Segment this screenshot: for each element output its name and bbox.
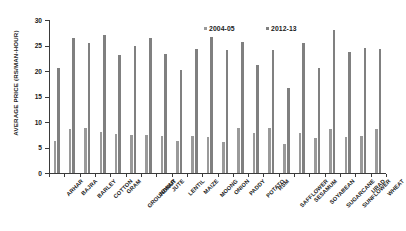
bar-2012-13-lentil: [180, 70, 183, 173]
x-tick-mark: [110, 174, 111, 177]
legend-label: 2004-05: [209, 25, 235, 32]
bar-2004-05-jowar: [145, 135, 148, 173]
x-tick-mark: [248, 174, 249, 177]
bar-group: [355, 20, 370, 173]
y-tick-label: 5: [22, 144, 42, 151]
bar-2012-13-arhar: [57, 68, 60, 173]
bar-group: [95, 20, 110, 173]
bar-group: [279, 20, 294, 173]
x-tick-mark: [187, 174, 188, 177]
bar-2012-13-moong: [210, 37, 213, 173]
bar-group: [263, 20, 278, 173]
y-tick-label: 10: [22, 119, 42, 126]
bar-group: [248, 20, 263, 173]
y-axis-title: AVERAGE PRICE (RS/MAN-HOUR): [9, 13, 23, 153]
x-tick-mark: [49, 174, 50, 177]
bar-2012-13-safflower: [287, 88, 290, 173]
bar-2004-05-sugarcane: [329, 129, 332, 173]
bar-2012-13-cotton: [103, 35, 106, 173]
x-tick-mark: [325, 174, 326, 177]
x-tick-mark: [355, 174, 356, 177]
x-tick-mark: [309, 174, 310, 177]
bar-2004-05-cotton: [100, 132, 103, 173]
legend-swatch-icon: [266, 27, 269, 30]
bar-group: [294, 20, 309, 173]
bar-2012-13-rsm: [272, 50, 275, 173]
x-label-lentil: LENTIL: [187, 178, 206, 197]
legend-swatch-icon: [204, 27, 207, 30]
bar-2012-13-sesamum: [302, 43, 305, 173]
bar-group: [371, 20, 386, 173]
bar-group: [172, 20, 187, 173]
bar-2012-13-jowar: [149, 38, 152, 173]
x-tick-mark: [294, 174, 295, 177]
plot-area: [49, 20, 386, 173]
bar-2004-05-urad: [360, 136, 363, 173]
bar-2012-13-sunflower: [348, 52, 351, 173]
x-tick-mark: [64, 174, 65, 177]
bar-group: [49, 20, 64, 173]
bar-group: [218, 20, 233, 173]
x-tick-mark: [279, 174, 280, 177]
x-tick-mark: [126, 174, 127, 177]
bar-group: [202, 20, 217, 173]
bar-group: [141, 20, 156, 173]
bar-2012-13-bajra: [72, 38, 75, 173]
bar-2012-13-barley: [88, 43, 91, 173]
x-tick-mark: [233, 174, 234, 177]
bar-2004-05-paddy: [237, 128, 240, 173]
y-tick-label: 30: [22, 17, 42, 24]
bar-2012-13-maize: [195, 49, 198, 173]
bar-2004-05-arhar: [54, 141, 57, 173]
y-tick-label: 20: [22, 68, 42, 75]
x-tick-mark: [95, 174, 96, 177]
bar-2012-13-urad: [364, 48, 367, 173]
bar-group: [64, 20, 79, 173]
legend-item-2004-05[interactable]: 2004-05: [204, 19, 235, 29]
y-tick-label: 25: [22, 42, 42, 49]
x-tick-mark: [156, 174, 157, 177]
bar-2004-05-gram: [115, 134, 118, 173]
bar-2012-13-onion: [226, 50, 229, 173]
bar-2012-13-soyabean: [318, 68, 321, 173]
bar-2012-13-jute: [164, 54, 167, 173]
bar-2004-05-jute: [161, 136, 164, 173]
bar-group: [340, 20, 355, 173]
bar-group: [80, 20, 95, 173]
bar-group: [309, 20, 324, 173]
bar-group: [233, 20, 248, 173]
x-tick-mark: [80, 174, 81, 177]
bar-2004-05-maize: [191, 136, 194, 173]
bar-2012-13-sugarcane: [333, 30, 336, 173]
y-tick-label: 15: [22, 93, 42, 100]
x-tick-mark: [141, 174, 142, 177]
bar-2012-13-groundnut: [134, 46, 137, 174]
bar-group: [126, 20, 141, 173]
bar-2004-05-soyabean: [314, 138, 317, 173]
bar-2004-05-potato: [253, 133, 256, 173]
x-tick-mark: [340, 174, 341, 177]
bar-2004-05-bajra: [69, 129, 72, 173]
bar-2004-05-wheat: [375, 129, 378, 173]
bar-2012-13-potato: [256, 65, 259, 173]
x-tick-mark: [386, 174, 387, 177]
bar-2004-05-onion: [222, 142, 225, 173]
legend-item-2012-13[interactable]: 2012-13: [266, 19, 297, 29]
bar-2004-05-safflower: [283, 144, 286, 173]
bar-2012-13-paddy: [241, 42, 244, 173]
bar-2004-05-groundnut: [130, 135, 133, 173]
x-tick-mark: [263, 174, 264, 177]
bar-group: [187, 20, 202, 173]
bar-2012-13-wheat: [379, 49, 382, 173]
bar-group: [156, 20, 171, 173]
bar-group: [325, 20, 340, 173]
bar-2004-05-moong: [207, 137, 210, 173]
bar-2012-13-gram: [118, 55, 121, 173]
bar-2004-05-barley: [84, 128, 87, 173]
y-tick-label: 0: [22, 170, 42, 177]
bar-2004-05-rsm: [268, 128, 271, 173]
bar-2004-05-sunflower: [345, 137, 348, 173]
bar-2004-05-sesamum: [299, 133, 302, 173]
bar-2004-05-lentil: [176, 141, 179, 173]
